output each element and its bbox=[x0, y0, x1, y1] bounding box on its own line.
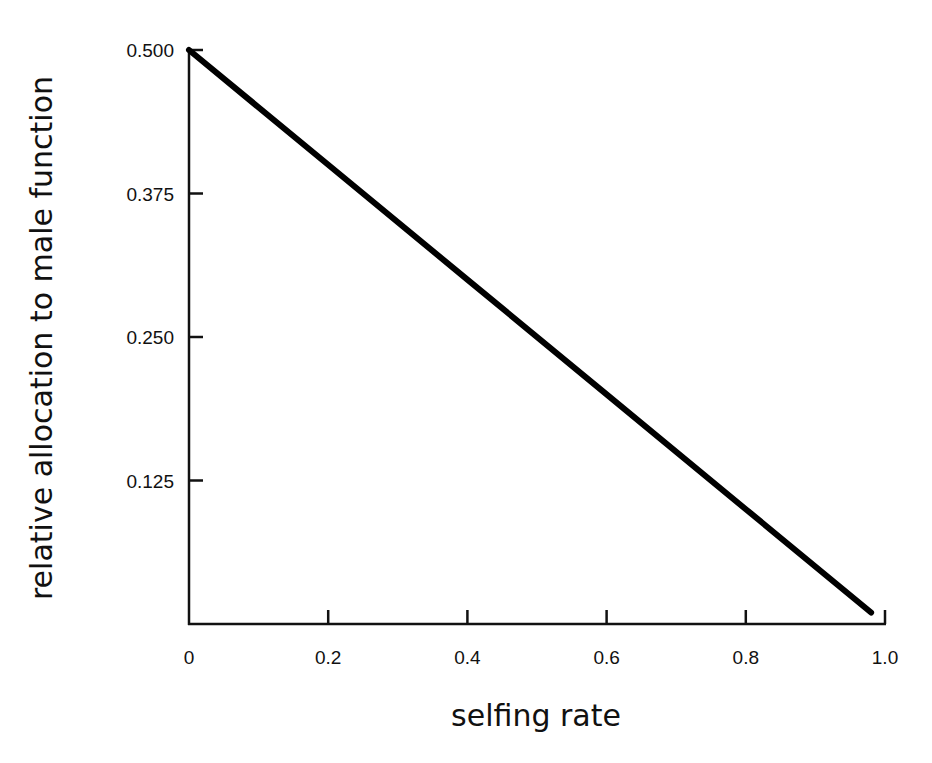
x-axis-title: selfing rate bbox=[451, 698, 621, 733]
x-tick-label: 0 bbox=[184, 647, 195, 668]
x-tick-label: 0.4 bbox=[454, 647, 481, 668]
y-tick-label: 0.125 bbox=[126, 471, 174, 492]
y-axis-title: relative allocation to male function bbox=[24, 76, 59, 600]
y-ticks: 0.5000.3750.2500.125 bbox=[126, 40, 203, 492]
x-tick-label: 0.6 bbox=[593, 647, 619, 668]
x-tick-label: 1.0 bbox=[872, 647, 898, 668]
y-tick-label: 0.500 bbox=[126, 40, 174, 61]
data-series bbox=[189, 50, 871, 613]
x-tick-label: 0.2 bbox=[315, 647, 341, 668]
chart: 00.20.40.60.81.0 0.5000.3750.2500.125 se… bbox=[0, 0, 932, 763]
y-tick-label: 0.375 bbox=[126, 184, 174, 205]
x-ticks: 00.20.40.60.81.0 bbox=[184, 610, 899, 668]
x-tick-label: 0.8 bbox=[733, 647, 759, 668]
data-line bbox=[189, 50, 871, 613]
y-tick-label: 0.250 bbox=[126, 327, 174, 348]
